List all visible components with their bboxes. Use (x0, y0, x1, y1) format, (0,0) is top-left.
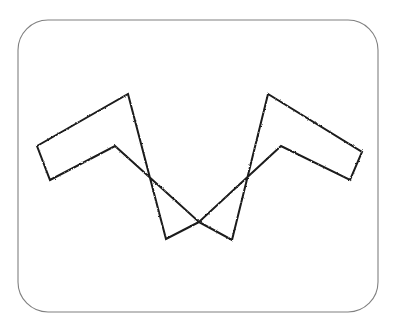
figure-canvas (0, 0, 397, 332)
shape-figure-svg (0, 0, 397, 332)
